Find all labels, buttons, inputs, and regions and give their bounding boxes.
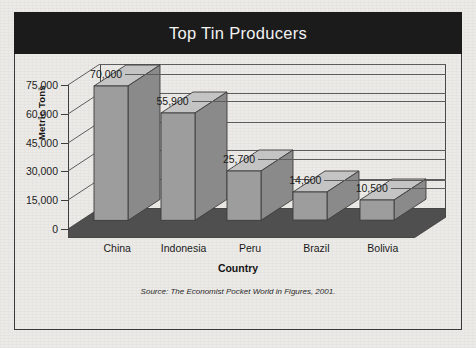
source-note: Source: The Economist Pocket World in Fi… (14, 287, 462, 296)
y-axis-tick-label: 30,000 (26, 165, 58, 177)
y-axis-tick-label: 60,000 (26, 108, 58, 120)
x-axis-title: Country (14, 262, 462, 274)
y-axis-tick (61, 200, 68, 201)
chart-figure: Top Tin Producers Metric Tons 015,00030,… (14, 12, 462, 330)
category-label-peru: Peru (239, 242, 261, 254)
screenshot-page: Top Tin Producers Metric Tons 015,00030,… (0, 0, 476, 348)
category-label-indonesia: Indonesia (161, 242, 207, 254)
y-axis-tick-label: 45,000 (26, 137, 58, 149)
bar-value-label: 14,600 (289, 174, 321, 186)
y-axis-tick (61, 229, 68, 230)
value-leader-line (258, 159, 446, 160)
y-axis-tick-label: 75,000 (26, 79, 58, 91)
value-leader-line (125, 74, 446, 75)
value-leader-line (324, 180, 446, 181)
chart-title-bar: Top Tin Producers (14, 12, 462, 54)
plot-area: 015,00030,00045,00060,00075,000 70,00055… (68, 64, 446, 229)
category-label-bolivia: Bolivia (367, 242, 398, 254)
y-axis-tick-label: 15,000 (26, 194, 58, 206)
y-axis-tick (61, 143, 68, 144)
bar-china (94, 65, 160, 220)
category-label-brazil: Brazil (303, 242, 329, 254)
y-axis-tick (61, 85, 68, 86)
bar-value-label: 70,000 (90, 68, 122, 80)
y-axis-tick (61, 114, 68, 115)
bar-value-label: 55,900 (156, 95, 188, 107)
bar-value-label: 10,500 (356, 182, 388, 194)
bar-indonesia (161, 92, 227, 220)
value-leader-line (192, 101, 446, 102)
y-axis-tick (61, 171, 68, 172)
value-leader-line (391, 188, 446, 189)
category-label-china: China (103, 242, 130, 254)
y-axis-tick-label: 0 (52, 223, 58, 235)
bar-value-label: 25,700 (223, 153, 255, 165)
page-title: Top Tin Producers (169, 24, 307, 43)
